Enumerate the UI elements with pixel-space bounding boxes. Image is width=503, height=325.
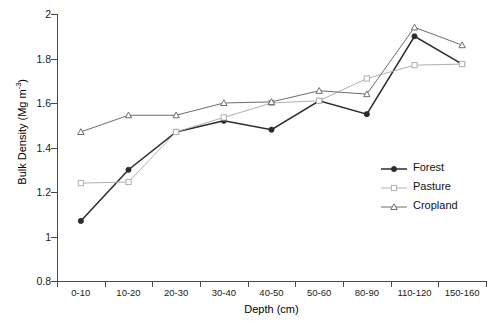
legend-marker-icon xyxy=(379,199,409,211)
y-axis-title-exponent: -3 xyxy=(14,83,23,90)
x-axis-title: Depth (cm) xyxy=(57,303,486,315)
legend-label: Forest xyxy=(409,161,444,173)
series-cropland xyxy=(78,24,466,134)
legend-item-pasture[interactable]: Pasture xyxy=(379,176,494,195)
data-point xyxy=(78,181,83,186)
bulk-density-line-chart: 21.81.61.41.210.8 0-1010-2020-3030-4040-… xyxy=(0,0,503,325)
legend-item-forest[interactable]: Forest xyxy=(379,157,494,176)
data-point xyxy=(411,24,417,30)
data-point xyxy=(126,179,131,184)
legend-marker-icon xyxy=(379,180,409,192)
y-axis-title-base: Bulk Density (Mg m xyxy=(16,89,28,184)
data-point xyxy=(460,61,465,66)
data-point xyxy=(364,112,369,117)
legend-label: Pasture xyxy=(409,180,451,192)
data-point xyxy=(221,115,226,120)
data-point xyxy=(412,34,417,39)
data-point xyxy=(364,76,369,81)
data-point xyxy=(174,129,179,134)
y-axis-title: Bulk Density (Mg m-3) xyxy=(14,27,28,237)
data-point xyxy=(269,127,274,132)
legend-label: Cropland xyxy=(409,199,458,211)
data-point xyxy=(317,98,322,103)
y-axis-title-tail: ) xyxy=(16,79,28,83)
series-line xyxy=(81,27,462,132)
legend-marker-icon xyxy=(379,161,409,173)
data-point xyxy=(126,167,131,172)
data-point xyxy=(78,218,83,223)
data-point xyxy=(412,63,417,68)
legend-item-cropland[interactable]: Cropland xyxy=(379,195,494,214)
chart-legend: ForestPastureCropland xyxy=(379,157,494,214)
